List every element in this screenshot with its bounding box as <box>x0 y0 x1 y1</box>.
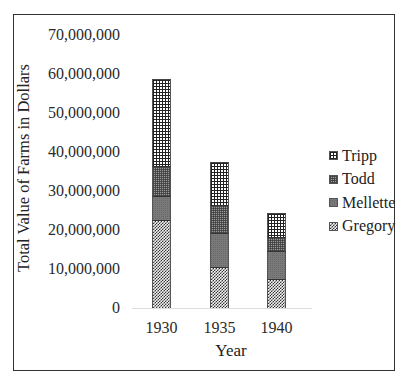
x-tick-label: 1940 <box>252 319 302 337</box>
legend-item-todd: Todd <box>329 168 395 191</box>
bar-segment-mellette <box>152 197 171 220</box>
bar-1940 <box>267 213 286 308</box>
y-tick-label: 50,000,000 <box>48 105 120 121</box>
y-tick-label: 60,000,000 <box>48 66 120 82</box>
legend-item-tripp: Tripp <box>329 144 395 167</box>
y-tick-label: 10,000,000 <box>48 261 120 277</box>
todd-swatch-icon <box>329 175 338 184</box>
bar-segment-tripp <box>152 79 171 166</box>
bar-1935 <box>210 162 229 308</box>
mellette-swatch-icon <box>329 198 338 207</box>
legend-label: Todd <box>342 170 375 188</box>
y-tick-label: 30,000,000 <box>48 183 120 199</box>
y-tick-label: 20,000,000 <box>48 222 120 238</box>
bar-segment-tripp <box>267 213 286 238</box>
y-tick-label: 40,000,000 <box>48 144 120 160</box>
bar-segment-todd <box>267 238 286 252</box>
bar-1930 <box>152 79 171 308</box>
tripp-swatch-icon <box>329 151 338 160</box>
y-tick-label: 70,000,000 <box>48 27 120 43</box>
gregory-swatch-icon <box>329 222 338 231</box>
bar-segment-mellette <box>210 234 229 268</box>
legend-label: Tripp <box>342 147 377 165</box>
legend-label: Mellette <box>342 194 395 212</box>
legend-label: Gregory <box>342 217 395 235</box>
x-tick-label: 1930 <box>137 319 187 337</box>
x-axis-baseline <box>132 308 312 309</box>
bar-segment-mellette <box>267 252 286 280</box>
x-axis-label: Year <box>201 341 261 361</box>
bar-segment-gregory <box>152 221 171 308</box>
bar-segment-todd <box>152 167 171 197</box>
y-axis-label: Total Value of Farms in Dollars <box>14 64 34 272</box>
bar-segment-gregory <box>210 268 229 308</box>
x-tick-label: 1935 <box>195 319 245 337</box>
y-tick-label: 0 <box>112 300 120 316</box>
legend-item-mellette: Mellette <box>329 191 395 214</box>
bar-segment-gregory <box>267 280 286 308</box>
legend-item-gregory: Gregory <box>329 215 395 238</box>
bar-segment-tripp <box>210 162 229 206</box>
bar-segment-todd <box>210 206 229 234</box>
legend: Tripp Todd Mellette Gregory <box>329 144 395 238</box>
